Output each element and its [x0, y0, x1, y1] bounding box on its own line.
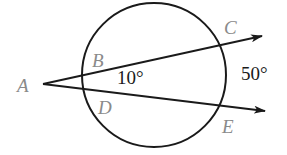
point-label-b: B	[92, 51, 104, 70]
point-label-d: D	[98, 98, 112, 117]
circle	[82, 3, 226, 147]
point-label-a: A	[17, 76, 29, 95]
secant-ac	[43, 36, 262, 84]
point-label-e: E	[222, 117, 234, 136]
outer-arc-label: 50°	[241, 64, 268, 83]
point-label-c: C	[224, 18, 237, 37]
secant-ae	[43, 84, 265, 111]
inner-arc-label: 10°	[117, 68, 144, 87]
